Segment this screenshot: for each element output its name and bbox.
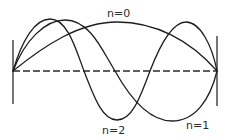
label-n0: n=0 [107, 7, 130, 20]
label-n2: n=2 [102, 124, 125, 137]
mode-n0-curve [13, 22, 217, 71]
label-n1: n=1 [186, 119, 209, 132]
standing-wave-diagram: n=0 n=2 n=1 [0, 0, 229, 140]
mode-n2-curve [13, 19, 217, 120]
